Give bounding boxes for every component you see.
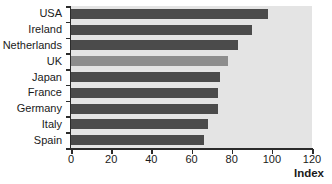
bar-row [71, 38, 312, 54]
x-axis-tick-label: 100 [263, 154, 281, 165]
x-axis-ticks [0, 149, 332, 155]
y-axis-tick-mark [66, 116, 71, 118]
bar [71, 40, 238, 50]
y-axis-tick-mark [66, 132, 71, 134]
x-axis-tick-label: 120 [303, 154, 321, 165]
bar-row [71, 69, 312, 85]
bar [71, 104, 218, 114]
y-axis-tick-label: USA [0, 6, 66, 22]
y-axis-tick-mark [66, 69, 71, 71]
y-axis-tick-mark [66, 38, 71, 40]
y-axis-tick-label: Germany [0, 101, 66, 117]
y-axis-tick-label: Italy [0, 116, 66, 132]
bar-row [71, 132, 312, 148]
y-axis-tick-mark [66, 85, 71, 87]
y-axis-tick-label: Netherlands [0, 38, 66, 54]
y-axis-tick-mark [66, 6, 71, 8]
bar [71, 88, 218, 98]
y-axis-tick-label: Ireland [0, 22, 66, 38]
bar [71, 135, 204, 145]
y-axis-category-labels: USAIrelandNetherlandsUKJapanFranceGerman… [0, 6, 66, 148]
bar [71, 119, 208, 129]
plot-area [71, 6, 312, 148]
bar [71, 25, 252, 35]
bar-row [71, 101, 312, 117]
bar-row [71, 22, 312, 38]
y-axis-tick-mark [66, 22, 71, 24]
y-axis-tick-label: France [0, 85, 66, 101]
y-axis-tick-label: Japan [0, 69, 66, 85]
x-axis-tick-label: 0 [68, 154, 74, 165]
y-axis-tick-label: UK [0, 53, 66, 69]
bar-series [71, 6, 312, 148]
y-axis-tick-mark [66, 101, 71, 103]
bar-row [71, 116, 312, 132]
bar-row [71, 53, 312, 69]
x-axis-tick-label: 20 [105, 154, 117, 165]
y-axis-tick-label: Spain [0, 132, 66, 148]
bar-row [71, 85, 312, 101]
y-axis-tick-mark [66, 148, 71, 150]
x-axis-tick-label: 80 [226, 154, 238, 165]
y-axis-tick-mark [66, 53, 71, 55]
bar [71, 9, 268, 19]
bar [71, 56, 228, 66]
bar-chart: USAIrelandNetherlandsUKJapanFranceGerman… [0, 0, 332, 184]
x-axis-tick-label: 40 [145, 154, 157, 165]
x-axis-tick-label: 60 [185, 154, 197, 165]
x-axis-title: Index [294, 168, 324, 180]
bar-row [71, 6, 312, 22]
bar [71, 72, 220, 82]
